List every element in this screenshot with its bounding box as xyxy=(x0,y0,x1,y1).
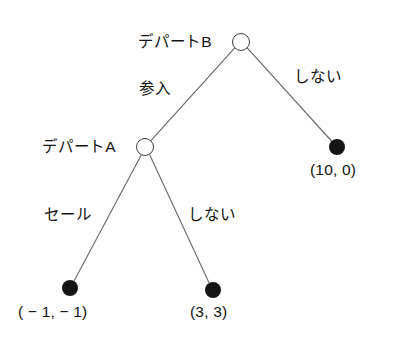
edge-label-no-sale: しない xyxy=(188,207,236,223)
node-depart-b[interactable] xyxy=(232,33,250,51)
game-tree-diagram: デパートB デパートA 参入 しない セール しない ( − 1, − 1) (… xyxy=(0,0,395,347)
edge-no-entry xyxy=(248,48,332,141)
node-label-depart-a: デパートA xyxy=(42,139,115,155)
node-terminal-no-entry[interactable] xyxy=(329,139,345,155)
payoff-label-no-entry: (10, 0) xyxy=(310,162,356,178)
edge-label-sale: セール xyxy=(44,207,92,223)
node-depart-a[interactable] xyxy=(136,138,154,156)
payoff-label-no-sale: (3, 3) xyxy=(190,304,227,320)
edge-label-no-entry: しない xyxy=(294,69,342,85)
node-terminal-sale[interactable] xyxy=(62,280,78,296)
node-label-depart-b: デパートB xyxy=(138,34,211,50)
node-terminal-no-sale[interactable] xyxy=(205,282,221,298)
edge-label-entry: 参入 xyxy=(139,81,171,97)
payoff-label-sale: ( − 1, − 1) xyxy=(18,304,87,320)
